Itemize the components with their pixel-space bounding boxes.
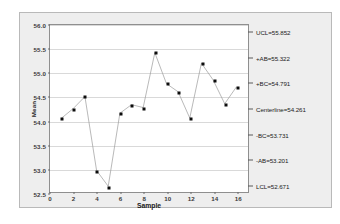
limit-tick-minus-bc (248, 134, 253, 135)
data-point (166, 83, 169, 86)
limit-label-lcl: LCL=52.671 (256, 182, 289, 189)
control-chart-figure: Mean Sample 56.055.555.054.554.053.553.0… (19, 12, 332, 208)
data-point (237, 86, 240, 89)
data-point (154, 52, 157, 55)
x-tick-mark (120, 192, 121, 194)
limit-tick-plus-bc (248, 83, 253, 84)
limit-label-plus-bc: +BC=54.791 (256, 80, 290, 87)
data-point (190, 118, 193, 121)
limit-tick-ucl (248, 32, 253, 33)
limit-tick-centerline (248, 108, 253, 109)
limit-label-minus-ab: -AB=53.201 (256, 157, 288, 164)
x-tick-mark (214, 192, 215, 194)
y-tick-label: 55.0 (34, 70, 46, 77)
x-tick-mark (97, 192, 98, 194)
data-point (213, 79, 216, 82)
data-point (72, 108, 75, 111)
limit-label-centerline: Centerline=54.261 (256, 105, 306, 112)
y-tick-label: 55.5 (34, 46, 46, 53)
data-point (201, 62, 204, 65)
limit-tick-lcl (248, 185, 253, 186)
x-tick-label: 10 (164, 195, 171, 202)
x-tick-mark (50, 192, 51, 194)
data-point (225, 103, 228, 106)
limit-label-minus-bc: -BC=53.731 (256, 131, 289, 138)
data-point (60, 118, 63, 121)
x-tick-mark (167, 192, 168, 194)
y-tick-label: 52.5 (34, 191, 46, 198)
limit-tick-minus-ab (248, 160, 253, 161)
x-axis-title: Sample (137, 202, 161, 209)
data-point (107, 187, 110, 190)
y-tick-label: 53.0 (34, 166, 46, 173)
series-line (50, 25, 248, 192)
x-tick-mark (73, 192, 74, 194)
x-tick-label: 12 (188, 195, 195, 202)
x-tick-mark (238, 192, 239, 194)
plot-area: Mean Sample 56.055.555.054.554.053.553.0… (49, 24, 249, 193)
x-tick-label: 4 (95, 195, 98, 202)
limit-label-plus-ab: +AB=55.322 (256, 54, 290, 61)
data-point (96, 171, 99, 174)
data-point (131, 104, 134, 107)
limit-label-ucl: UCL=55.852 (256, 29, 290, 36)
x-tick-label: 8 (142, 195, 145, 202)
x-tick-label: 2 (72, 195, 75, 202)
y-axis-title: Mean (30, 100, 37, 117)
x-tick-label: 14 (211, 195, 218, 202)
data-point (143, 107, 146, 110)
x-tick-label: 6 (119, 195, 122, 202)
limit-tick-plus-ab (248, 57, 253, 58)
x-tick-mark (144, 192, 145, 194)
x-tick-label: 0 (48, 195, 51, 202)
y-tick-label: 53.5 (34, 142, 46, 149)
y-tick-label: 56.0 (34, 22, 46, 29)
data-point (84, 96, 87, 99)
x-tick-mark (191, 192, 192, 194)
y-tick-label: 54.0 (34, 118, 46, 125)
data-point (178, 91, 181, 94)
y-tick-label: 54.5 (34, 94, 46, 101)
data-point (119, 113, 122, 116)
x-tick-label: 16 (235, 195, 242, 202)
